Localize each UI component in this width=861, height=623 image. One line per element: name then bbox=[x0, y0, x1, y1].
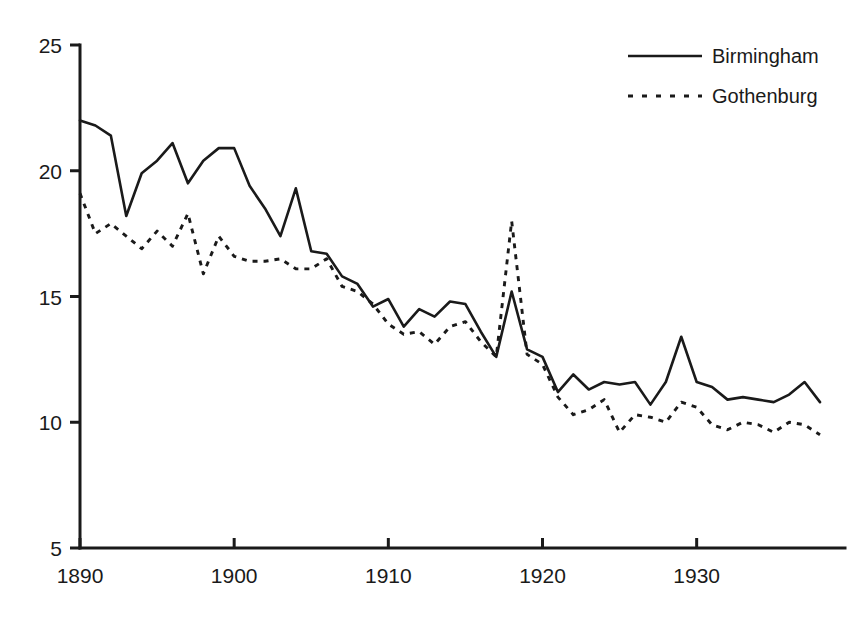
x-tick-label-1910: 1910 bbox=[365, 564, 412, 587]
y-tick-label-15: 15 bbox=[39, 286, 62, 309]
legend-label-birmingham: Birmingham bbox=[712, 45, 819, 67]
series-line-gothenburg bbox=[80, 193, 820, 434]
x-axis: 18901900191019201930 bbox=[57, 538, 845, 587]
chart-container: 510152025 18901900191019201930 Birmingha… bbox=[0, 0, 861, 623]
x-tick-label-1890: 1890 bbox=[57, 564, 104, 587]
y-axis-tick-labels: 510152025 bbox=[39, 34, 62, 560]
y-tick-label-20: 20 bbox=[39, 160, 62, 183]
x-tick-label-1920: 1920 bbox=[519, 564, 566, 587]
x-tick-label-1900: 1900 bbox=[211, 564, 258, 587]
data-series-group bbox=[80, 120, 820, 434]
x-tick-label-1930: 1930 bbox=[673, 564, 720, 587]
y-tick-label-25: 25 bbox=[39, 34, 62, 57]
series-line-birmingham bbox=[80, 120, 820, 404]
y-tick-label-10: 10 bbox=[39, 411, 62, 434]
line-chart: 510152025 18901900191019201930 Birmingha… bbox=[0, 0, 861, 623]
legend: Birmingham Gothenburg bbox=[628, 45, 819, 107]
x-axis-tick-labels: 18901900191019201930 bbox=[57, 564, 720, 587]
y-axis: 510152025 bbox=[39, 34, 80, 560]
y-tick-label-5: 5 bbox=[50, 537, 62, 560]
legend-label-gothenburg: Gothenburg bbox=[712, 85, 818, 107]
